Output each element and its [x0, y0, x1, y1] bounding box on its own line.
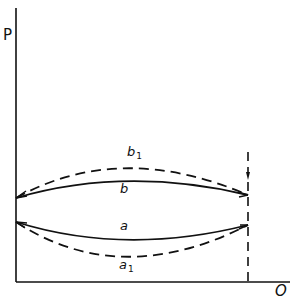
- curve-b1-dashed: [16, 168, 248, 198]
- curve-label-a: a: [120, 219, 128, 232]
- diagram-canvas: [0, 0, 291, 304]
- curve-label-a1-main: a: [119, 257, 127, 272]
- y-axis-label: P: [3, 28, 12, 43]
- curve-label-a1-subscript: 1: [128, 264, 134, 274]
- curve-label-a1: a1: [119, 258, 134, 271]
- curve-label-b1: b1: [127, 145, 142, 158]
- x-axis-label: O: [275, 284, 287, 299]
- arrowhead-top-boundary-icon: [246, 172, 250, 180]
- curve-label-b: b: [120, 182, 128, 195]
- curve-label-b1-subscript: 1: [136, 151, 142, 161]
- curve-b-solid: [16, 181, 248, 198]
- curve-label-b1-main: b: [127, 144, 135, 159]
- curve-a-solid: [16, 222, 248, 240]
